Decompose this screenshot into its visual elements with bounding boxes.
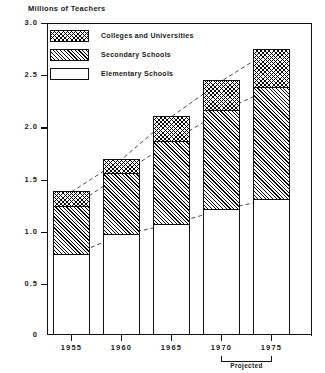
bar-1955-elementary	[53, 254, 90, 335]
y-tick-label-1.0: 1.0	[25, 227, 38, 236]
x-tick-1955	[71, 335, 72, 341]
legend-swatch-elementary	[50, 68, 89, 80]
x-label-1965: 1965	[161, 343, 183, 352]
y-tick-label-3.0: 3.0	[25, 18, 38, 27]
x-label-1955: 1955	[61, 343, 83, 352]
y-tick-label-2.5: 2.5	[25, 70, 38, 79]
y-tick-label-0: 0	[33, 330, 38, 339]
bar-1955-secondary	[53, 206, 90, 255]
y-tick-label-2.0: 2.0	[25, 122, 38, 131]
bar-1975-colleges	[253, 49, 290, 88]
x-label-1960: 1960	[111, 343, 133, 352]
y-tick-label-0.5: 0.5	[25, 279, 38, 288]
bar-1960	[103, 159, 140, 335]
bar-1970-secondary	[203, 110, 240, 210]
bar-1965-colleges	[153, 116, 190, 142]
x-tick-1970	[221, 335, 222, 341]
bar-1965-elementary	[153, 224, 190, 335]
bar-1955-colleges	[53, 191, 90, 207]
y-tick-label-1.5: 1.5	[25, 175, 38, 184]
legend-swatch-colleges	[50, 30, 89, 42]
x-tick-1960	[121, 335, 122, 341]
bar-1965	[153, 116, 190, 335]
projected-bracket: Projected	[0, 355, 325, 373]
projected-label: Projected	[230, 362, 262, 369]
legend-label-colleges: Colleges and Universities	[101, 32, 194, 39]
bar-1970-colleges	[203, 80, 240, 111]
legend-label-elementary: Elementary Schools	[101, 70, 173, 77]
bar-1955	[53, 191, 90, 335]
bar-1970	[203, 80, 240, 335]
bar-1975	[253, 49, 290, 335]
bar-1975-secondary	[253, 87, 290, 200]
teachers-stacked-bar-chart: Millions of Teachers 3.0 2.5 2.0 1.5 1.0…	[0, 0, 325, 373]
bar-1960-secondary	[103, 173, 140, 235]
bar-1975-elementary	[253, 199, 290, 335]
y-axis-title: Millions of Teachers	[28, 4, 106, 13]
x-tick-1975	[271, 335, 272, 341]
bar-1970-elementary	[203, 209, 240, 335]
x-label-1975: 1975	[261, 343, 283, 352]
x-tick-1965	[171, 335, 172, 341]
bar-1960-elementary	[103, 234, 140, 335]
legend-label-secondary: Secondary Schools	[101, 51, 171, 58]
x-label-1970: 1970	[211, 343, 233, 352]
bar-1965-secondary	[153, 141, 190, 225]
legend-swatch-secondary	[50, 49, 89, 61]
bar-1960-colleges	[103, 159, 140, 174]
